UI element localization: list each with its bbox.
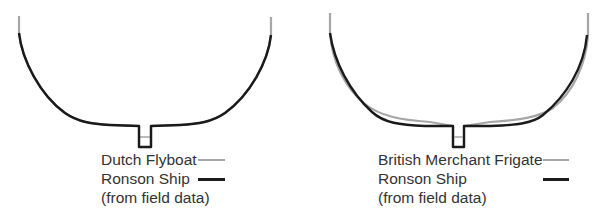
legend-label-british-merchant-frigate: British Merchant Frigate bbox=[378, 151, 543, 168]
ronson-ship-hull-outline-right bbox=[330, 33, 587, 147]
legend-note-field-data: (from field data) bbox=[378, 189, 487, 206]
british-merchant-frigate-hull-outline bbox=[330, 13, 588, 147]
black-line-swatch bbox=[543, 178, 569, 181]
legend-label-ronson-ship: Ronson Ship bbox=[378, 170, 467, 187]
legend-note-left: (from field data) bbox=[101, 188, 210, 207]
ronson-ship-hull-outline-left bbox=[19, 33, 271, 147]
legend-note-field-data: (from field data) bbox=[101, 189, 210, 206]
legend-label-ronson-ship: Ronson Ship bbox=[101, 170, 190, 187]
legend-note-right: (from field data) bbox=[378, 188, 543, 207]
legend-item-dutch-flyboat: Dutch Flyboat bbox=[101, 150, 210, 169]
legend-left: Dutch Flyboat Ronson Ship (from field da… bbox=[101, 150, 210, 207]
dutch-flyboat-hull-outline bbox=[19, 16, 271, 147]
gray-line-swatch bbox=[543, 159, 569, 161]
legend-label-dutch-flyboat: Dutch Flyboat bbox=[101, 151, 197, 168]
legend-item-ronson-ship-left: Ronson Ship bbox=[101, 169, 210, 188]
legend-item-british-merchant-frigate: British Merchant Frigate bbox=[378, 150, 543, 169]
legend-item-ronson-ship-right: Ronson Ship bbox=[378, 169, 543, 188]
black-line-swatch bbox=[198, 178, 225, 181]
legend-right: British Merchant Frigate Ronson Ship (fr… bbox=[378, 150, 543, 207]
gray-line-swatch bbox=[198, 159, 225, 161]
